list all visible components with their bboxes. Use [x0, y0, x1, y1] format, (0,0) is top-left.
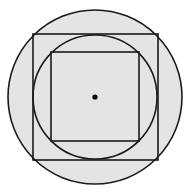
- center-point: [92, 94, 97, 99]
- geometry-diagram: [0, 0, 188, 194]
